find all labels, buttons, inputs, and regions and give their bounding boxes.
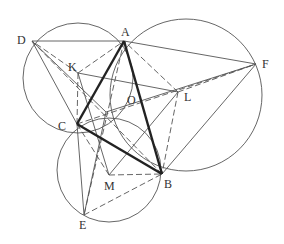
dashed-segment-KC — [77, 73, 78, 124]
diagram-svg: A B C D E F K L M O — [0, 0, 284, 244]
label-C: C — [58, 119, 66, 133]
label-D: D — [17, 33, 26, 47]
segment-DC — [32, 41, 77, 124]
dashed-segment-KA — [78, 41, 124, 73]
point-labels-group: A B C D E F K L M O — [17, 25, 269, 232]
segment-CE — [77, 124, 84, 215]
circle-BCE — [57, 118, 161, 222]
label-F: F — [262, 57, 269, 71]
dashed-segment-MB — [109, 174, 162, 175]
label-M: M — [104, 179, 115, 193]
label-B: B — [164, 177, 172, 191]
segment-FB — [162, 64, 256, 174]
label-A: A — [121, 25, 130, 39]
segment-KM — [78, 73, 109, 175]
label-K: K — [68, 60, 77, 74]
label-L: L — [184, 90, 191, 104]
dashed-segment-LB — [162, 92, 178, 174]
label-E: E — [79, 218, 86, 232]
geometry-diagram: A B C D E F K L M O — [0, 0, 284, 244]
label-O: O — [127, 93, 136, 107]
segment-KL — [78, 73, 178, 92]
dashed-segment-MC — [77, 124, 109, 175]
side-CA — [77, 41, 124, 124]
dashed-segment-EB — [84, 174, 162, 215]
segment-AF — [124, 41, 256, 64]
